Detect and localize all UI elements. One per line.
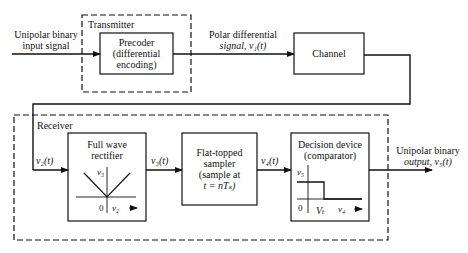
- channel-label: Channel: [294, 48, 364, 59]
- receiver-label: Receiver: [37, 120, 73, 131]
- output-signal-label: Unipolar binary output, v₅(t): [388, 145, 468, 167]
- rectifier-origin-label: 0: [99, 203, 104, 214]
- v3-label: v₃(t): [151, 155, 168, 166]
- precoder-label: Precoder (differential encoding): [100, 37, 173, 70]
- decision-x-axis-label: v₄: [338, 204, 345, 215]
- input-signal-label: Unipolar binary input signal: [8, 29, 84, 51]
- decision-origin-label: 0: [298, 203, 303, 214]
- decision-threshold-label: Vₜ: [316, 205, 325, 216]
- rectifier-transfer-plot: [76, 167, 137, 213]
- rectifier-x-axis-label: v₂: [112, 203, 119, 214]
- v4-label: v₄(t): [261, 155, 278, 166]
- rectifier-label: Full wave rectifier: [68, 139, 146, 161]
- v2-label: v₂(t): [36, 155, 53, 166]
- polar-signal-label: Polar differential signal, v₁(t): [198, 29, 288, 51]
- decision-label: Decision device (comparator): [291, 139, 369, 161]
- rectifier-y-axis-label: v₃: [97, 167, 104, 178]
- decision-transfer-plot: [297, 165, 362, 213]
- sampler-label: Flat-topped sampler (sample at t = nTₛ): [182, 147, 257, 191]
- decision-y-axis-label: v₅: [297, 167, 304, 178]
- transmitter-label: Transmitter: [88, 19, 134, 30]
